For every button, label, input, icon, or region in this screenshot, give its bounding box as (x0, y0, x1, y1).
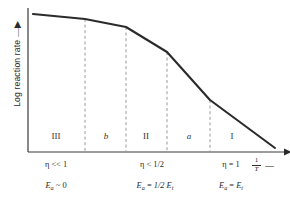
ea-relation: ~ (56, 181, 61, 190)
region-label-ii: II (143, 131, 149, 141)
ea-subscript: a (224, 184, 227, 191)
region-label-a: a (187, 131, 192, 141)
annotation-ea-region-i: Ea = Et (219, 181, 243, 190)
ea-subscript: a (51, 184, 54, 191)
ea-value: 1/2 E (154, 181, 172, 190)
annotation-ea-region-ii: Ea = 1/2 Et (137, 181, 174, 190)
x-axis-label-fraction: 1 T (252, 157, 261, 173)
fraction-numerator: 1 (253, 157, 261, 165)
x-axis-label-arrow-icon: — (265, 161, 274, 170)
ea-value-subscript: t (172, 184, 174, 191)
region-label-b: b (104, 131, 109, 141)
ea-relation: = (147, 181, 152, 190)
ea-subscript: a (142, 184, 145, 191)
region-label-iii: III (52, 131, 61, 141)
eta-relation: << 1 (51, 160, 67, 169)
reaction-rate-curve (33, 14, 275, 148)
eta-symbol: η (140, 160, 144, 169)
eta-symbol: η (222, 160, 226, 169)
plot-canvas (0, 0, 290, 203)
eta-symbol: η (45, 160, 49, 169)
annotation-eta-region-iii: η << 1 (45, 160, 67, 169)
eta-relation: < 1/2 (146, 160, 164, 169)
annotation-eta-region-ii: η < 1/2 (140, 160, 164, 169)
figure-root: Log reaction rate —▶ III b II a I η << 1… (0, 0, 290, 203)
x-axis-label: 1 T — (252, 157, 274, 173)
region-label-i: I (231, 131, 234, 141)
annotation-ea-region-iii: Ea ~ 0 (45, 181, 66, 190)
eta-relation: = 1 (229, 160, 240, 169)
x-axis-arrowhead-icon (284, 149, 290, 156)
ea-value-subscript: t (241, 184, 243, 191)
annotation-eta-region-i: η = 1 (222, 160, 240, 169)
ea-relation: = (229, 181, 234, 190)
ea-value: 0 (62, 181, 66, 190)
fraction-denominator: T (253, 166, 261, 174)
